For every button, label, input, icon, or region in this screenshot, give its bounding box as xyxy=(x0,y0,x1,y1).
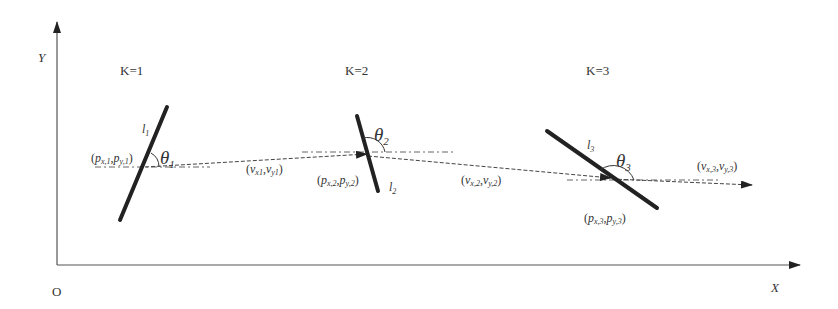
line-l1-label: l1 xyxy=(142,122,149,138)
trajectory-segment-2 xyxy=(368,156,611,178)
axes xyxy=(57,22,800,265)
point-3-label: (px,3,py,3) xyxy=(584,211,626,226)
point-1-label: (px,1,py,1) xyxy=(91,151,133,166)
trajectory-diagram: O X Y K=1 K=2 K=3 l1 l2 l3 θ1 θ2 θ3 (px,… xyxy=(0,0,838,309)
line-l3-label: l3 xyxy=(587,138,594,154)
stage-3-k-label: K=3 xyxy=(586,63,609,78)
theta-2-label: θ2 xyxy=(374,124,389,147)
theta-3-label: θ3 xyxy=(616,150,631,173)
angle-arc-1 xyxy=(151,153,159,167)
stage-1-k-label: K=1 xyxy=(120,63,143,78)
line-l3 xyxy=(547,131,657,208)
origin-label: O xyxy=(52,284,61,299)
velocity-2-label: (vx,2,vy,2) xyxy=(461,173,501,188)
stage-2-k-label: K=2 xyxy=(345,63,368,78)
y-axis-label: Y xyxy=(38,50,47,65)
velocity-3-label: (vx,3,vy,3) xyxy=(697,159,737,174)
point-2-label: (px,2,py,2) xyxy=(317,173,359,188)
x-axis-label: X xyxy=(770,280,780,295)
trajectory-segment-1 xyxy=(145,154,367,167)
line-l2-label: l2 xyxy=(389,180,396,196)
theta-1-label: θ1 xyxy=(160,147,175,170)
velocity-1-label: (vx1,vy1) xyxy=(246,162,283,177)
